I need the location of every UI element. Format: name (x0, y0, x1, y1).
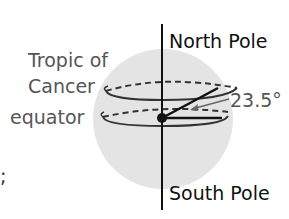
tropic-label-line2: Cancer (28, 75, 95, 97)
tropic-label-line1: Tropic of (27, 49, 109, 71)
stray-punctuation: ; (0, 165, 6, 187)
north-pole-label: North Pole (169, 30, 268, 52)
angle-label: 23.5° (230, 89, 282, 111)
equator-label: equator (10, 106, 85, 128)
earth-tilt-diagram: North Pole South Pole Tropic of Cancer e… (0, 0, 289, 219)
south-pole-label: South Pole (169, 182, 270, 204)
